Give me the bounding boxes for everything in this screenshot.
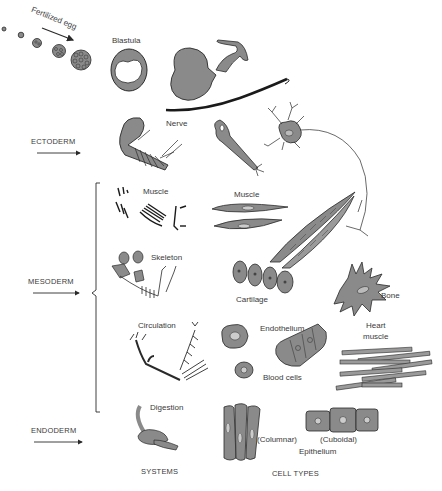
- diagram-artwork: [0, 0, 442, 491]
- cuboidal-epithelium-icon: [306, 408, 378, 432]
- skeletal-muscle-fibers-icon: [270, 192, 355, 268]
- germ-layer-mesoderm: MESODERM: [28, 278, 74, 286]
- system-skeleton-label: Skeleton: [151, 254, 182, 262]
- blastula-label: Blastula: [112, 37, 140, 45]
- germ-layer-ectoderm: ECTODERM: [31, 138, 75, 146]
- smooth-muscle-cells-icon: [212, 204, 288, 229]
- cell-epithelium-label: Epithelium: [299, 448, 336, 456]
- neuron-icon: [264, 102, 368, 236]
- columnar-epithelium-icon: [224, 404, 260, 461]
- cell-cartilage-label: Cartilage: [236, 296, 268, 304]
- cell-columnar-label: (Columnar): [257, 436, 297, 444]
- circulation-system-icon: [130, 322, 208, 380]
- germ-layer-endoderm: ENDODERM: [31, 427, 76, 435]
- caption-cell-types: CELL TYPES: [272, 470, 319, 478]
- cleavage-stages-icon: [2, 27, 91, 70]
- digestion-system-icon: [138, 406, 178, 450]
- cell-heart-muscle-label-line2: muscle: [363, 333, 388, 341]
- system-circulation-label: Circulation: [138, 322, 176, 330]
- cell-cuboidal-label: (Cuboidal): [320, 436, 357, 444]
- cell-endothelium-label: Endothelium: [260, 325, 304, 333]
- system-muscle-label: Muscle: [143, 188, 168, 196]
- cell-bone-label: Bone: [381, 292, 400, 300]
- bone-cell-icon: [334, 262, 390, 316]
- mesoderm-bracket-icon: [92, 183, 100, 412]
- system-nerve-label: Nerve: [166, 120, 187, 128]
- cell-blood-cells-label: Blood cells: [263, 374, 302, 382]
- blastula-icon: [111, 49, 147, 91]
- caption-systems: SYSTEMS: [141, 468, 178, 476]
- system-digestion-label: Digestion: [150, 404, 183, 412]
- nerve-cell-icon: [215, 120, 264, 176]
- cell-muscle-label: Muscle: [234, 191, 259, 199]
- blood-cell-icon: [235, 362, 253, 378]
- embryo-icon: [166, 40, 289, 110]
- cell-heart-muscle-label-line1: Heart: [366, 322, 386, 330]
- fertilized-egg-arrow-icon: [42, 28, 73, 40]
- heart-muscle-fibers-icon: [336, 347, 432, 390]
